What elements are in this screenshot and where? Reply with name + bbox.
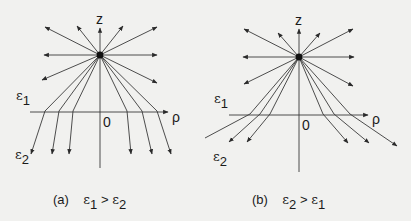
- rho-axis-label-b: ρ: [372, 112, 380, 126]
- point-charge-b: [296, 54, 303, 61]
- caption-a: (a) ε1 > ε2: [53, 193, 126, 206]
- z-axis-label-a: z: [96, 12, 103, 26]
- origin-label-b: 0: [302, 118, 310, 132]
- field-lines-diagram: [0, 0, 411, 221]
- caption-b: (b) ε2 > ε1: [252, 193, 325, 206]
- panel-b: [205, 29, 397, 172]
- z-axis-label-b: z: [295, 13, 302, 27]
- epsilon2-label-b: ε2: [213, 149, 227, 163]
- point-charge-a: [97, 52, 104, 59]
- epsilon2-label-a: ε2: [15, 147, 29, 161]
- epsilon1-label-a: ε1: [16, 88, 30, 102]
- origin-label-a: 0: [103, 115, 111, 129]
- panel-a: [30, 26, 171, 168]
- epsilon1-label-b: ε1: [214, 91, 228, 105]
- rho-axis-label-a: ρ: [172, 110, 180, 124]
